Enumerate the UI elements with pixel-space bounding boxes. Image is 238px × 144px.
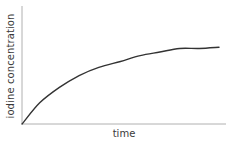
chart-canvas [0,0,238,144]
concentration-curve [22,47,219,124]
x-axis-label: time [113,128,136,139]
y-axis-label: iodine concentration [5,14,16,119]
